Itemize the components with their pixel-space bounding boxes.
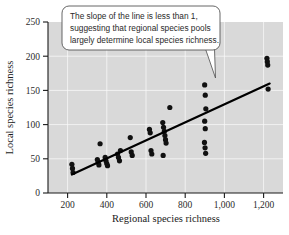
x-tick-label: 600: [139, 200, 154, 210]
data-point: [149, 151, 154, 156]
data-point: [203, 106, 208, 111]
data-point: [265, 62, 270, 67]
x-tick-label: 200: [60, 200, 75, 210]
callout-line-3: largely determine local species richness…: [70, 35, 219, 45]
figure-container: 250 200 150 100 50 0 200 400 600 800 1,0…: [0, 0, 289, 235]
x-axis-ticks: [68, 193, 264, 198]
data-point: [163, 140, 168, 145]
y-tick-label: 200: [26, 52, 41, 62]
data-point: [203, 126, 208, 131]
y-tick-label: 50: [31, 154, 41, 164]
data-point: [202, 145, 207, 150]
x-tick-label: 400: [100, 200, 115, 210]
data-point: [97, 141, 102, 146]
data-point: [202, 119, 207, 124]
y-tick-label: 150: [26, 86, 41, 96]
y-axis-title: Local species richness: [4, 61, 15, 155]
data-point: [266, 86, 271, 91]
y-tick-label: 250: [26, 17, 41, 27]
data-point: [130, 153, 135, 158]
y-axis-tick-labels: 250 200 150 100 50 0: [26, 17, 41, 198]
callout-line-1: The slope of the line is less than 1,: [70, 11, 198, 21]
y-tick-label: 100: [26, 120, 41, 130]
data-point: [148, 130, 153, 135]
data-point: [203, 93, 208, 98]
y-tick-label: 0: [35, 188, 40, 198]
y-axis-ticks: [43, 22, 48, 193]
callout-line-2: suggesting that regional species pools: [70, 23, 211, 33]
x-axis-title: Regional species richness: [112, 213, 220, 224]
data-point: [160, 120, 165, 125]
data-point: [202, 82, 207, 87]
data-point: [128, 135, 133, 140]
data-point: [161, 153, 166, 158]
scatter-chart: 250 200 150 100 50 0 200 400 600 800 1,0…: [0, 0, 289, 235]
data-point: [203, 151, 208, 156]
data-point: [167, 105, 172, 110]
x-tick-label: 800: [178, 200, 193, 210]
x-tick-label: 1,200: [253, 200, 275, 210]
x-tick-label: 1,000: [214, 200, 236, 210]
x-axis-tick-labels: 200 400 600 800 1,000 1,200: [60, 200, 274, 210]
data-point: [105, 163, 110, 168]
data-point: [202, 140, 207, 145]
data-point: [117, 158, 122, 163]
